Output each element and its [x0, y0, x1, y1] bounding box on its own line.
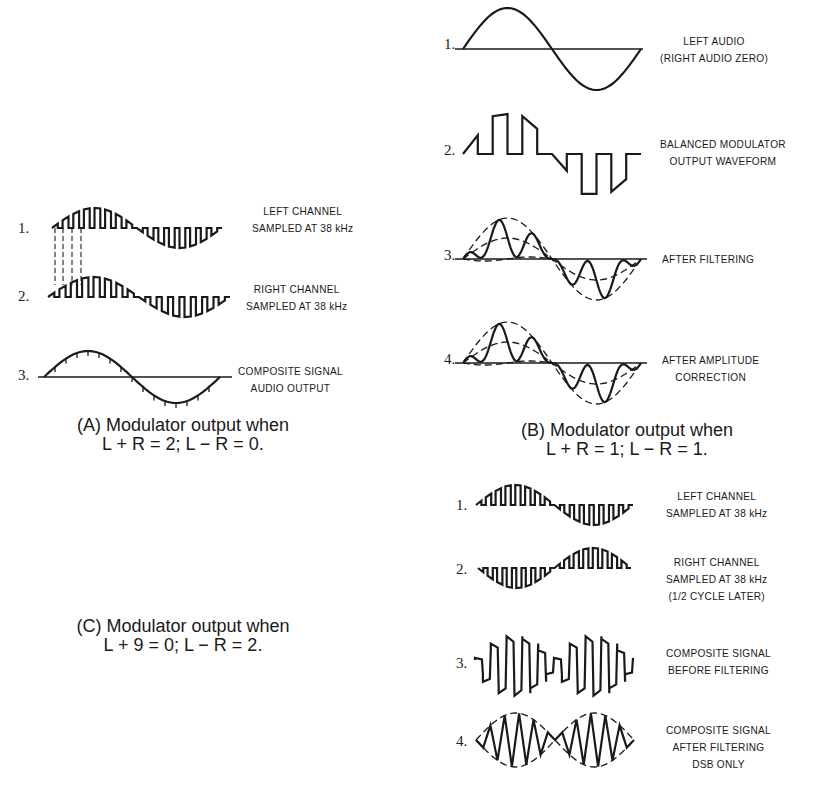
panel-c-caption: (C) Modulator output when L + 9 = 0; L −…	[36, 617, 330, 655]
label-line: AFTER FILTERING	[666, 739, 771, 756]
caption-line: L + 9 = 0; L − R = 2.	[36, 636, 330, 655]
label-line: COMPOSITE SIGNAL	[666, 722, 771, 739]
composite-after-filtering-dsb-waveform	[0, 0, 819, 790]
caption-line: (C) Modulator output when	[36, 617, 330, 636]
label-line: DSB ONLY	[666, 756, 771, 773]
waveform-label: COMPOSITE SIGNAL AFTER FILTERING DSB ONL…	[666, 722, 771, 773]
